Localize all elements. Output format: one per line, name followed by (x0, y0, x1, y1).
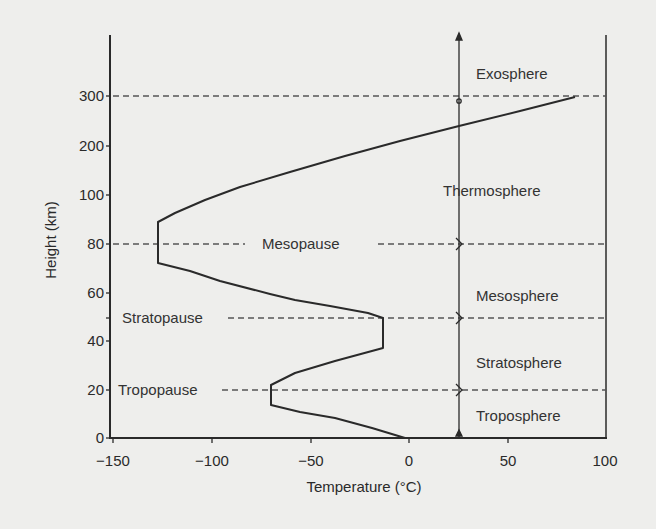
x-tick-label: −150 (96, 452, 130, 469)
layer-divider-arrow (456, 33, 462, 438)
y-tick-label: 80 (87, 235, 104, 252)
mesosphere-label: Mesosphere (476, 287, 559, 304)
troposphere-label: Troposphere (476, 407, 561, 424)
y-tick-labels: 0 20 40 60 80 100 200 300 (79, 87, 104, 446)
tropopause-label: Tropopause (118, 381, 198, 398)
y-tick-label: 60 (87, 284, 104, 301)
y-tick-label: 200 (79, 137, 104, 154)
y-axis-title: Height (km) (42, 201, 59, 279)
x-tick-labels: −150 −100 −50 0 50 100 (96, 452, 617, 469)
x-tick-label: 0 (405, 452, 413, 469)
y-tick-label: 100 (79, 186, 104, 203)
y-tick-label: 20 (87, 381, 104, 398)
boundary-lines (113, 96, 606, 390)
stratosphere-label: Stratosphere (476, 354, 562, 371)
exosphere-label: Exosphere (476, 65, 548, 82)
x-tick-label: −50 (298, 452, 323, 469)
x-tick-label: 100 (592, 452, 617, 469)
mesopause-label: Mesopause (262, 235, 340, 252)
temperature-curve (158, 97, 575, 438)
thermosphere-label: Thermosphere (443, 182, 541, 199)
stratopause-label: Stratopause (122, 309, 203, 326)
y-tick-label: 300 (79, 87, 104, 104)
y-tick-label: 40 (87, 332, 104, 349)
atmosphere-temperature-chart: 0 20 40 60 80 100 200 300 −150 −100 −50 … (0, 0, 656, 529)
y-tick-label: 0 (96, 429, 104, 446)
x-axis-title: Temperature (°C) (306, 478, 421, 495)
x-tick-label: 50 (500, 452, 517, 469)
x-tick-label: −100 (195, 452, 229, 469)
